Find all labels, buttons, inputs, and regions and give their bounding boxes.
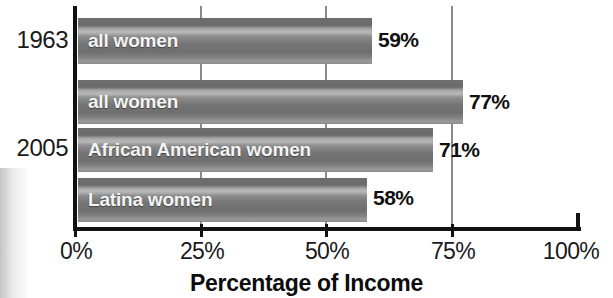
bar-2005-african-american-women: African American women xyxy=(78,128,433,172)
x-tick-0 xyxy=(74,224,77,237)
x-tick-50 xyxy=(325,224,328,237)
plot-area: all women 59% all women 77% African Amer… xyxy=(76,0,578,230)
bar-value-1963-all-women: 59% xyxy=(378,28,419,52)
x-axis-title: Percentage of Income xyxy=(0,270,613,297)
year-label-1963: 1963 xyxy=(17,26,68,54)
x-tick-label-50: 50% xyxy=(305,238,349,265)
x-tick-label-0: 0% xyxy=(60,238,92,265)
x-tick-label-100: 100% xyxy=(543,238,599,265)
bar-label-1963-all-women: all women xyxy=(78,30,178,52)
x-axis-end-cap xyxy=(576,213,580,231)
bar-value-2005-latina-women: 58% xyxy=(373,186,414,210)
bar-label-2005-african-american-women: African American women xyxy=(78,139,311,161)
x-tick-label-25: 25% xyxy=(180,238,224,265)
year-label-2005: 2005 xyxy=(17,134,68,162)
year-label-column: 1963 2005 xyxy=(0,0,68,230)
bar-chart: 1963 2005 all women 59% all women 77% Af… xyxy=(0,0,613,298)
bar-value-2005-all-women: 77% xyxy=(469,90,510,114)
y-axis-line xyxy=(73,6,77,230)
x-tick-75 xyxy=(451,224,454,237)
x-tick-label-75: 75% xyxy=(431,238,475,265)
bar-label-2005-latina-women: Latina women xyxy=(78,189,212,211)
bar-2005-all-women: all women xyxy=(78,80,463,124)
bar-label-2005-all-women: all women xyxy=(78,91,178,113)
x-tick-25 xyxy=(200,224,203,237)
bar-2005-latina-women: Latina women xyxy=(78,178,367,222)
bar-1963-all-women: all women xyxy=(78,18,372,64)
bar-value-2005-african-american-women: 71% xyxy=(439,138,480,162)
